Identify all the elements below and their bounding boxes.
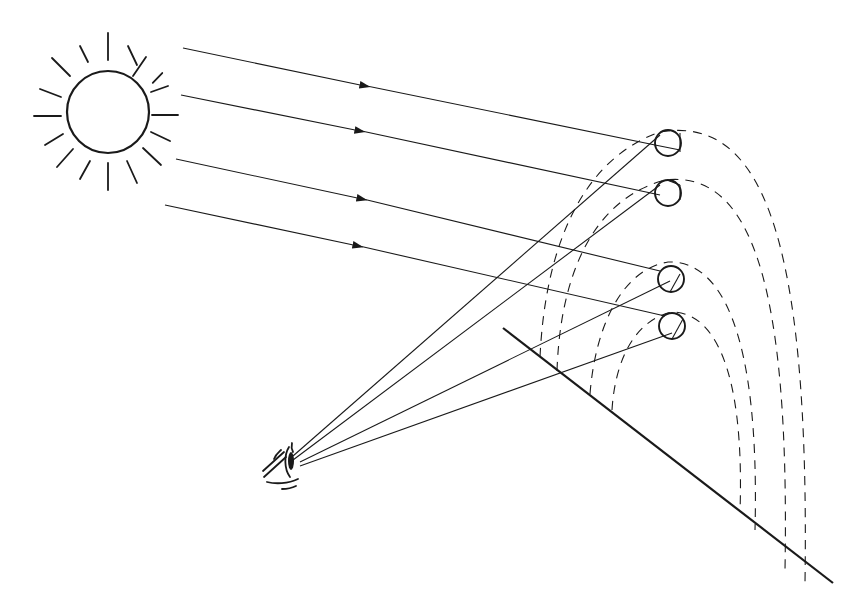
- beam-4-arrow-icon: [165, 205, 358, 246]
- sun-rays: [34, 33, 178, 190]
- beam-2: [357, 130, 660, 195]
- beam-4: [355, 245, 665, 316]
- beam-3-arrow-icon: [176, 159, 362, 199]
- beam-3: [359, 198, 660, 271]
- beam-1: [362, 85, 655, 145]
- eye-icon: [263, 443, 298, 489]
- beam-1-arrow-icon: [183, 48, 365, 86]
- raindrops: [655, 130, 685, 339]
- raindrop-4-icon: [659, 313, 685, 339]
- beam-2-arrow-icon: [181, 95, 360, 131]
- rainbow-arc-2: [557, 179, 785, 570]
- rainbow-diagram: [0, 0, 860, 609]
- rainbow-arcs: [540, 130, 805, 583]
- raindrop-1-icon: [655, 130, 681, 156]
- rainbow-arc-1: [540, 130, 805, 583]
- ground-line: [503, 328, 833, 583]
- sight-line-4: [300, 333, 672, 466]
- raindrop-3-icon: [658, 266, 684, 292]
- incoming-light-beams: [165, 48, 665, 316]
- sun-disc: [67, 71, 149, 153]
- lines-of-sight: [293, 135, 672, 466]
- sun-icon: [34, 33, 178, 190]
- raindrop-2-icon: [655, 180, 681, 206]
- sight-line-3: [300, 281, 670, 462]
- rainbow-arc-4: [612, 312, 740, 512]
- rainbow-arc-3: [590, 262, 755, 530]
